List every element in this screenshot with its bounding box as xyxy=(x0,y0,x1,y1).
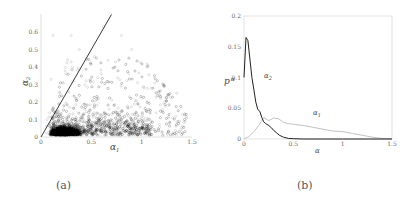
y-axis-label-b: pα xyxy=(224,75,235,86)
x-axis-label-b: α xyxy=(315,147,320,155)
y-tick-label: 0.05 xyxy=(228,104,242,111)
y-tick-label: 0.2 xyxy=(28,98,38,105)
figure: 00.10.20.30.40.50.6 00.511.5 α2 α1 00.05… xyxy=(0,0,416,205)
x-tick-label: 0 xyxy=(242,140,246,147)
scatter-points xyxy=(46,26,188,137)
x-axis-label-a: α1 xyxy=(110,142,119,153)
y-tick-label: 0.4 xyxy=(28,63,38,70)
y-axis-label-a: α2 xyxy=(20,77,31,86)
annotation-alpha2: α2 xyxy=(264,72,272,81)
x-tick-labels-b: 00.511.5 xyxy=(242,140,397,147)
x-tick-label: 1.5 xyxy=(387,140,397,147)
x-tick-label: 1 xyxy=(140,138,144,145)
caption-a: (a) xyxy=(56,179,71,192)
line-plot-b: 00.050.10.150.2 00.511.5 pα α α2 α1 xyxy=(224,12,397,155)
y-tick-label: 0 xyxy=(237,135,241,142)
scatter-plot-a: 00.10.20.30.40.50.6 00.511.5 α2 α1 xyxy=(20,14,197,153)
y-tick-label: 0.6 xyxy=(28,28,38,35)
series-alpha2-line xyxy=(244,38,392,140)
y-tick-label: 0.15 xyxy=(228,43,242,50)
annotation-alpha1: α1 xyxy=(313,109,321,118)
y-tick-label: 0.1 xyxy=(28,116,38,123)
caption-b: (b) xyxy=(297,179,313,192)
x-tick-label: 1 xyxy=(341,140,345,147)
x-tick-label: 0 xyxy=(39,138,43,145)
y-tick-label: 0.5 xyxy=(28,46,38,53)
y-tick-label: 0.2 xyxy=(231,12,241,19)
x-tick-labels-a: 00.511.5 xyxy=(39,138,197,145)
x-tick-label: 0.5 xyxy=(87,138,97,145)
x-tick-label: 0.5 xyxy=(289,140,299,147)
x-tick-label: 1.5 xyxy=(187,138,197,145)
y-tick-label: 0 xyxy=(34,133,38,140)
series-alpha1-line xyxy=(244,118,392,140)
